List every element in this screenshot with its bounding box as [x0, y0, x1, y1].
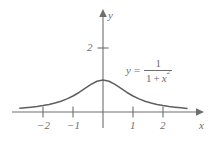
x-tick-label-minus1: −1 — [67, 120, 80, 131]
denominator-one: 1 — [146, 72, 152, 84]
x-axis-label: x — [199, 120, 204, 131]
denominator-variable: x — [162, 72, 167, 84]
y-tick-label-2: 2 — [87, 42, 93, 53]
x-tick-label-2: 2 — [160, 120, 166, 131]
equation-equals-sign: = — [134, 65, 140, 76]
denominator-exponent: 2 — [167, 68, 171, 76]
fraction-denominator: 1+x2 — [144, 71, 172, 84]
function-graph-figure: −2 −1 1 2 2 x y y = 1 1+x2 — [0, 0, 213, 145]
fraction-numerator: 1 — [152, 58, 164, 70]
y-axis-arrowhead — [99, 9, 107, 17]
x-axis-arrowhead — [196, 108, 204, 116]
plot-canvas — [0, 0, 213, 145]
equation-fraction: 1 1+x2 — [144, 58, 172, 84]
x-tick-label-1: 1 — [130, 120, 136, 131]
equation-lhs: y — [126, 65, 131, 76]
equation-annotation: y = 1 1+x2 — [126, 58, 172, 84]
axes-group — [12, 9, 204, 128]
denominator-plus-sign: + — [154, 72, 160, 84]
y-axis-label: y — [108, 10, 113, 21]
x-tick-label-minus2: −2 — [37, 120, 50, 131]
